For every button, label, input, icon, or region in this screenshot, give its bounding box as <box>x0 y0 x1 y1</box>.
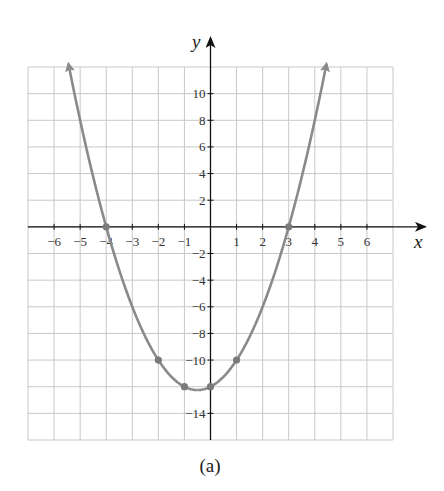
figure-caption: (a) <box>199 455 220 477</box>
x-tick-label: 1 <box>233 234 240 249</box>
y-tick-label: −4 <box>192 273 206 288</box>
x-tick-label: 6 <box>364 234 371 249</box>
y-tick-label: 6 <box>199 139 206 154</box>
data-point <box>207 383 214 390</box>
y-tick-label: 10 <box>193 86 206 101</box>
x-tick-label: −1 <box>178 234 192 249</box>
data-point <box>103 223 110 230</box>
x-tick-label: −6 <box>47 234 61 249</box>
x-tick-label: 5 <box>338 234 345 249</box>
y-tick-label: 8 <box>199 113 206 128</box>
x-tick-label: −2 <box>151 234 165 249</box>
y-tick-label: 4 <box>199 166 206 181</box>
x-tick-label: 4 <box>312 234 319 249</box>
data-point <box>285 223 292 230</box>
x-tick-label: −5 <box>73 234 87 249</box>
parabola-chart: −6−5−4−3−2−1123456108642−2−4−6−8−10−14 x… <box>0 0 444 491</box>
data-point <box>233 356 240 363</box>
x-tick-label: −3 <box>125 234 139 249</box>
y-tick-label: −6 <box>192 299 206 314</box>
y-tick-label: −8 <box>192 326 206 341</box>
data-point <box>181 383 188 390</box>
y-tick-label: −2 <box>192 246 206 261</box>
y-tick-label: −10 <box>185 353 205 368</box>
x-tick-label: 2 <box>259 234 266 249</box>
y-tick-label: 2 <box>199 193 206 208</box>
y-tick-label: −14 <box>185 406 206 421</box>
x-axis-label: x <box>413 231 423 252</box>
y-axis-label: y <box>190 31 201 52</box>
data-point <box>155 356 162 363</box>
